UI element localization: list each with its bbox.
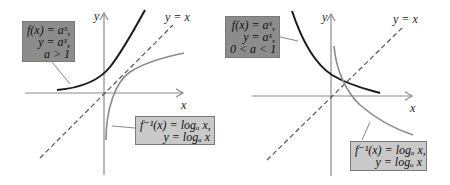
- right-exponential-label-box: f(x) = aˣ, y = aˣ, 0 < a < 1: [225, 16, 280, 58]
- right-exp-leader: [280, 37, 298, 41]
- right-log-line2: y = logₐ x: [355, 156, 422, 168]
- left-exponential-label-box: f(x) = aˣ, y = aˣ, a > 1: [22, 21, 75, 62]
- right-exp-line3: 0 < a < 1: [230, 43, 275, 55]
- left-log-label-box: f⁻¹(x) = logₐ x, y = logₐ x: [135, 116, 215, 145]
- left-log-line2: y = logₐ x: [140, 131, 210, 143]
- left-diagonal-label: y = x: [165, 10, 190, 25]
- right-x-axis-label: x: [410, 101, 415, 116]
- left-exp-line3: a > 1: [27, 48, 70, 60]
- right-diagonal-label: y = x: [393, 12, 418, 27]
- left-log-leader: [112, 126, 135, 128]
- left-exp-leader: [52, 62, 70, 84]
- right-y-axis-label: y: [322, 10, 327, 25]
- left-x-axis-label: x: [181, 98, 186, 113]
- right-log-leader: [362, 122, 370, 140]
- right-exponential-curve: [292, 11, 380, 93]
- left-y-axis-label: y: [94, 9, 99, 24]
- right-log-label-box: f⁻¹(x) = logₐ x, y = logₐ x: [350, 141, 427, 171]
